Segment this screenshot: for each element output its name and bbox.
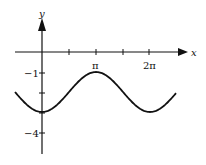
tick-label-pi: π bbox=[92, 60, 99, 71]
x-axis-label: x bbox=[191, 47, 197, 58]
tick-label-minus-1: −1 bbox=[24, 68, 39, 79]
y-axis-label: y bbox=[38, 8, 45, 19]
cosine-curve bbox=[15, 72, 176, 112]
graph: y x π 2π −1 −4 bbox=[0, 0, 206, 165]
y-axis-arrow-icon bbox=[38, 18, 46, 31]
tick-label-minus-4: −4 bbox=[24, 128, 39, 139]
tick-label-2pi: 2π bbox=[143, 60, 156, 71]
x-axis-arrow-icon bbox=[178, 48, 188, 56]
